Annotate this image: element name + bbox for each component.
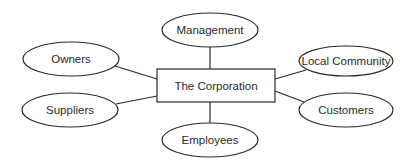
connector-local-community: [275, 70, 306, 79]
employees-label: Employees: [182, 134, 239, 146]
suppliers-label: Suppliers: [46, 104, 94, 116]
connector-owners: [115, 66, 157, 79]
corporation-label: The Corporation: [174, 80, 257, 92]
connector-customers: [275, 91, 304, 102]
connector-suppliers: [116, 96, 157, 104]
owners-label: Owners: [51, 53, 91, 65]
local-community-label: Local Community: [302, 55, 391, 67]
management-label: Management: [176, 24, 243, 36]
customers-label: Customers: [318, 104, 374, 116]
